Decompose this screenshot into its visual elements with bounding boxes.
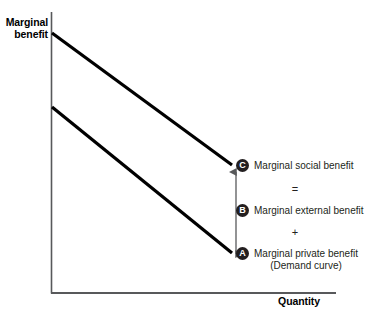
legend-label-marginal-private-benefit: Marginal private benefit (Demand curve): [254, 247, 358, 272]
legend-label-marginal-external-benefit: Marginal external benefit: [254, 204, 364, 217]
marginal-social-benefit-curve: [52, 33, 232, 165]
operator-equals: =: [285, 183, 305, 195]
legend-item-marginal-private-benefit: A Marginal private benefit (Demand curve…: [236, 247, 358, 272]
legend-item-marginal-external-benefit: B Marginal external benefit: [236, 204, 364, 217]
legend-label-marginal-social-benefit: Marginal social benefit: [254, 159, 354, 172]
operator-plus: +: [285, 226, 305, 238]
badge-c-icon: C: [236, 159, 249, 172]
marginal-private-benefit-curve: [52, 107, 232, 253]
x-axis-title: Quantity: [262, 295, 336, 307]
badge-b-icon: B: [236, 204, 249, 217]
y-axis-title-line2: benefit: [0, 28, 48, 40]
legend-item-marginal-social-benefit: C Marginal social benefit: [236, 159, 354, 172]
marginal-benefit-diagram: Marginal benefit Quantity C Marginal soc…: [0, 0, 384, 309]
badge-a-icon: A: [236, 247, 249, 260]
y-axis-title: Marginal benefit: [0, 16, 48, 40]
legend-label-demand-curve: (Demand curve): [254, 260, 358, 272]
legend-label-main: Marginal private benefit: [254, 248, 358, 259]
y-axis-title-line1: Marginal: [6, 16, 48, 28]
